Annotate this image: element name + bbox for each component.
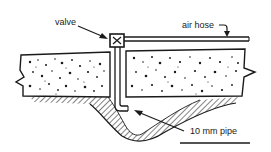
valve-icon: [110, 34, 124, 47]
valve-leader-arrow: [78, 26, 108, 39]
concrete-slab-right: [126, 49, 255, 97]
concrete-slab-left: [16, 52, 110, 97]
pipe-label: 10 mm pipe: [190, 126, 237, 136]
diagram-canvas: valve air hose 10 mm pipe: [0, 0, 271, 152]
valve-label: valve: [55, 17, 76, 27]
air-hose: [124, 37, 249, 41]
air-hose-label: air hose: [182, 20, 214, 30]
air-hose-leader-arrow: [219, 25, 230, 37]
